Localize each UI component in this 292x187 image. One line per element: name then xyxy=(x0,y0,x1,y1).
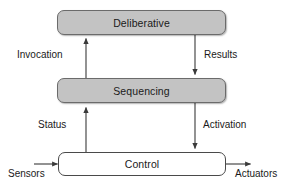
layer-label-control: Control xyxy=(125,158,160,170)
layer-box-control[interactable]: Control xyxy=(58,152,226,176)
layer-box-sequencing[interactable]: Sequencing xyxy=(57,78,226,103)
layer-label-sequencing: Sequencing xyxy=(113,85,169,97)
architecture-diagram: Deliberative Sequencing Control Invocati… xyxy=(0,0,292,187)
edge-label-invocation: Invocation xyxy=(17,49,63,60)
edge-label-status: Status xyxy=(38,119,66,130)
layer-label-deliberative: Deliberative xyxy=(113,17,170,29)
edge-label-results: Results xyxy=(204,49,237,60)
io-label-sensors: Sensors xyxy=(8,168,45,179)
layer-box-deliberative[interactable]: Deliberative xyxy=(57,10,226,35)
io-label-actuators: Actuators xyxy=(235,168,277,179)
edge-label-activation: Activation xyxy=(203,119,246,130)
